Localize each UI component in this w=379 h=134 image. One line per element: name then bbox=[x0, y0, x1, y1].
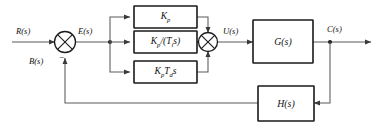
block-label-plant: G(s) bbox=[253, 20, 313, 63]
block-label-integral: Kp/(Tis) bbox=[134, 31, 197, 53]
control-junction bbox=[199, 33, 218, 52]
wire-output-to-feedback-block bbox=[314, 42, 330, 103]
error-junction-minus-sign: − bbox=[59, 52, 64, 62]
wire-branch-to-derivative bbox=[110, 42, 130, 72]
block-label-proportional: Kp bbox=[134, 6, 197, 28]
block-label-proportional-text: Kp bbox=[161, 11, 171, 23]
block-label-derivative: KpTds bbox=[134, 61, 197, 83]
wire-derivative-to-sum bbox=[197, 51, 208, 72]
block-label-feedback: H(s) bbox=[258, 86, 314, 121]
signal-label-reference: R(s) bbox=[16, 26, 30, 36]
control-block-diagram: R(s) E(s) B(s) − U(s) C(s) Kp Kp/(Tis) K… bbox=[0, 0, 379, 134]
signal-label-control: U(s) bbox=[223, 26, 238, 36]
block-label-integral-text: Kp/(Tis) bbox=[151, 36, 180, 48]
wire-proportional-to-sum bbox=[197, 17, 208, 33]
signal-label-output: C(s) bbox=[327, 24, 342, 34]
block-label-derivative-text: KpTds bbox=[155, 66, 177, 78]
signal-label-feedback: B(s) bbox=[29, 56, 43, 66]
wire-branch-to-proportional bbox=[110, 17, 130, 42]
signal-label-error: E(s) bbox=[78, 26, 92, 36]
error-junction bbox=[55, 32, 76, 53]
